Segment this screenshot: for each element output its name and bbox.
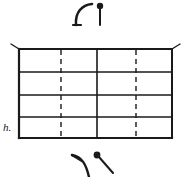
top-right-tick-icon <box>172 44 180 49</box>
left-axis-label: h. <box>3 122 11 133</box>
arrow-curve-mark-icon <box>72 155 89 177</box>
pin-mark-diagonal-icon <box>94 152 113 173</box>
top-left-tick-icon <box>11 44 19 49</box>
arrow-curve-path <box>72 155 89 177</box>
grid-vertical-dashed-lines <box>61 50 136 137</box>
figure-container: h. <box>0 0 185 177</box>
figure-drawing <box>0 0 185 177</box>
pin-diagonal-stem <box>99 157 113 173</box>
pin-vertical-head <box>97 3 103 9</box>
pin-diagonal-head <box>94 152 101 159</box>
pin-mark-vertical-icon <box>97 3 103 25</box>
grid-horizontal-lines <box>19 49 172 138</box>
hook-curve-path <box>76 4 92 25</box>
grid-vertical-solid-lines <box>19 49 172 138</box>
hook-curve-mark-icon <box>73 4 92 25</box>
